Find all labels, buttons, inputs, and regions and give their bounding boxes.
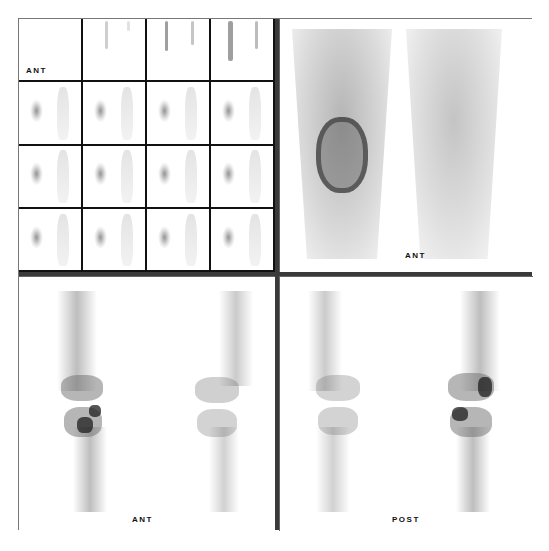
flow-frame-3 — [147, 19, 209, 80]
flow-frame-13 — [19, 209, 81, 270]
uptake-focus — [77, 417, 93, 433]
flow-frame-4 — [211, 19, 273, 80]
uptake-focus — [89, 405, 101, 417]
delayed-posterior-panel: POST — [279, 276, 533, 531]
flow-frame-15 — [147, 209, 209, 270]
dynamic-flow-panel: ANT — [19, 19, 275, 272]
delayed-anterior-panel: ANT — [19, 276, 275, 531]
blood-pool-panel: ANT — [279, 19, 533, 272]
uptake-focus — [452, 407, 468, 421]
flow-frame-1: ANT — [19, 19, 81, 80]
view-label: POST — [392, 515, 420, 524]
flow-frame-10 — [83, 146, 145, 207]
uptake-focus — [478, 377, 492, 397]
flow-frame-2 — [83, 19, 145, 80]
flow-frame-16 — [211, 209, 273, 270]
flow-frame-6 — [83, 82, 145, 143]
flow-frame-9 — [19, 146, 81, 207]
view-label: ANT — [132, 515, 153, 524]
view-label: ANT — [405, 251, 426, 260]
left-leg-image — [406, 29, 502, 259]
flow-frames-grid: ANT — [19, 19, 275, 272]
flow-frame-5 — [19, 82, 81, 143]
horizontal-divider — [19, 272, 532, 276]
flow-frame-7 — [147, 82, 209, 143]
view-label: ANT — [26, 66, 47, 75]
flow-frame-12 — [211, 146, 273, 207]
flow-frame-11 — [147, 146, 209, 207]
hyperemia-focus — [316, 117, 368, 193]
flow-frame-8 — [211, 82, 273, 143]
scintigraphy-figure: ANT — [18, 18, 532, 530]
flow-frame-14 — [83, 209, 145, 270]
